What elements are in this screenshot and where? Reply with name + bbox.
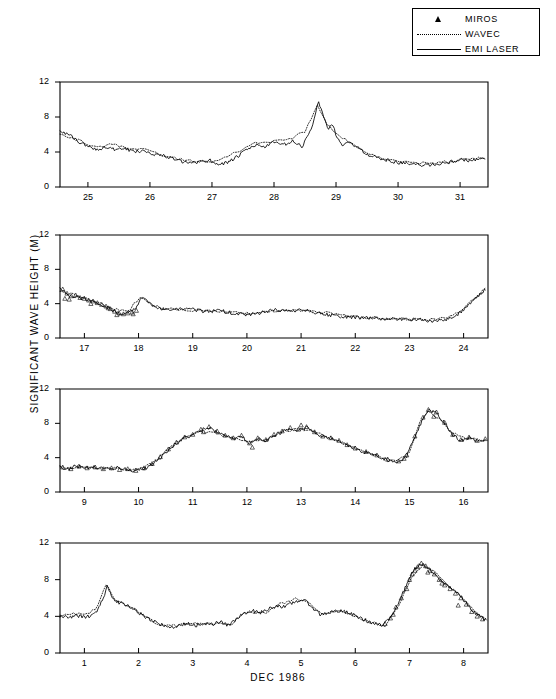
trace-emi-laser <box>60 288 485 322</box>
miros-marker <box>410 572 414 576</box>
x-tick-label: 24 <box>459 343 469 353</box>
wave-height-figure: MIROS WAVEC EMI LASER SIGNIFICANT WAVE H… <box>0 0 556 699</box>
x-tick-label: 12 <box>242 497 252 507</box>
legend-label-miros: MIROS <box>465 14 498 24</box>
x-tick-label: 31 <box>455 192 465 202</box>
x-tick-label: 1 <box>82 658 87 668</box>
x-tick-label: 2 <box>136 658 141 668</box>
trace-wavec <box>60 411 485 470</box>
x-tick-label: 22 <box>350 343 360 353</box>
panel-0 <box>55 82 488 187</box>
legend-item-emi-laser: EMI LASER <box>413 41 541 57</box>
x-tick-label: 29 <box>331 192 341 202</box>
x-tick-label: 3 <box>190 658 195 668</box>
y-tick-label: 4 <box>44 610 49 620</box>
x-tick-label: 11 <box>188 497 197 507</box>
panel-3 <box>55 543 488 653</box>
x-tick-label: 14 <box>350 497 360 507</box>
miros-marker <box>250 445 254 449</box>
miros-marker <box>464 602 468 606</box>
y-tick-label: 8 <box>44 574 49 584</box>
x-tick-label: 20 <box>242 343 252 353</box>
y-tick-label: 0 <box>44 181 49 191</box>
x-tick-label: 30 <box>393 192 403 202</box>
legend-label-wavec: WAVEC <box>465 29 501 39</box>
miros-marker <box>456 603 460 607</box>
x-tick-label: 8 <box>461 658 466 668</box>
dotted-line-icon <box>413 27 465 41</box>
y-tick-label: 0 <box>44 486 49 496</box>
chart-legend: MIROS WAVEC EMI LASER <box>412 8 540 56</box>
triangle-marker-icon <box>413 12 465 26</box>
legend-item-wavec: WAVEC <box>413 26 541 42</box>
solid-line-icon <box>413 42 465 56</box>
trace-emi-laser <box>60 563 486 628</box>
trace-emi-laser <box>60 409 485 472</box>
miros-marker <box>207 425 211 429</box>
y-tick-label: 8 <box>44 263 49 273</box>
y-tick-label: 12 <box>39 76 49 86</box>
y-tick-label: 12 <box>39 383 49 393</box>
y-tick-label: 0 <box>44 647 49 657</box>
miros-marker <box>299 423 303 427</box>
y-tick-label: 12 <box>39 537 49 547</box>
y-axis-title: SIGNIFICANT WAVE HEIGHT (M) <box>29 194 40 454</box>
miros-marker <box>61 287 65 291</box>
x-tick-label: 15 <box>404 497 414 507</box>
panel-frame <box>60 235 488 338</box>
x-axis-title: DEC 1986 <box>0 672 556 683</box>
x-tick-label: 21 <box>296 343 306 353</box>
legend-item-miros: MIROS <box>413 11 541 27</box>
y-tick-label: 8 <box>44 111 49 121</box>
x-tick-label: 23 <box>404 343 414 353</box>
y-tick-label: 8 <box>44 417 49 427</box>
legend-label-emi-laser: EMI LASER <box>465 44 519 54</box>
x-tick-label: 9 <box>82 497 87 507</box>
y-tick-label: 4 <box>44 146 49 156</box>
x-tick-label: 13 <box>296 497 306 507</box>
y-tick-label: 4 <box>44 452 49 462</box>
miros-marker <box>419 561 423 565</box>
x-tick-label: 4 <box>244 658 249 668</box>
trace-wavec <box>60 565 486 627</box>
panel-frame <box>60 543 488 653</box>
x-tick-label: 27 <box>207 192 217 202</box>
miros-marker <box>63 296 67 300</box>
x-tick-label: 16 <box>459 497 469 507</box>
y-tick-label: 0 <box>44 332 49 342</box>
y-tick-label: 12 <box>39 229 49 239</box>
x-tick-label: 26 <box>145 192 155 202</box>
panel-2 <box>55 389 488 492</box>
x-tick-label: 7 <box>407 658 412 668</box>
x-tick-label: 5 <box>299 658 304 668</box>
y-tick-label: 4 <box>44 298 49 308</box>
x-tick-label: 6 <box>353 658 358 668</box>
miros-marker <box>388 616 392 620</box>
x-tick-label: 19 <box>188 343 198 353</box>
x-tick-label: 18 <box>134 343 144 353</box>
trace-emi-laser <box>60 102 485 167</box>
x-tick-label: 25 <box>83 192 93 202</box>
x-tick-label: 10 <box>134 497 144 507</box>
panel-frame <box>60 389 488 492</box>
panel-1 <box>55 235 488 338</box>
trace-wavec <box>60 105 485 164</box>
x-tick-label: 17 <box>79 343 89 353</box>
panel-frame <box>60 82 488 187</box>
miros-marker <box>432 414 436 418</box>
miros-marker <box>480 617 484 621</box>
miros-marker <box>74 293 78 297</box>
x-tick-label: 28 <box>269 192 279 202</box>
